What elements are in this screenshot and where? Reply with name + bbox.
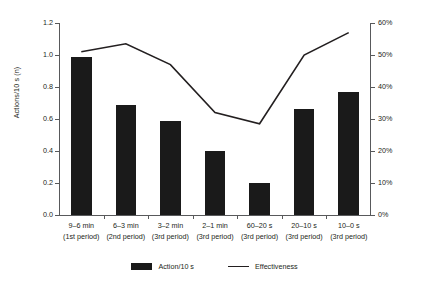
bar-swatch-icon: [131, 263, 152, 270]
right-tick-mark: [371, 215, 375, 216]
right-tick-label: 10%: [378, 179, 392, 186]
x-axis-baseline: [59, 215, 371, 216]
left-tick-label: 0.2: [25, 179, 53, 186]
right-tick-label: 30%: [378, 115, 392, 122]
category-main-label: 9–6 min: [69, 221, 95, 230]
category-main-label: 10–0 s: [338, 221, 360, 230]
right-tick-mark: [371, 183, 375, 184]
plot-area: 0.00.20.40.60.81.01.2 0%10%20%30%40%50%6…: [59, 23, 371, 215]
x-tick-mark: [148, 215, 149, 219]
left-tick-label: 1.0: [25, 51, 53, 58]
right-tick-label: 40%: [378, 83, 392, 90]
x-tick-mark: [237, 215, 238, 219]
legend-label-action-per-10s: Action/10 s: [158, 262, 194, 271]
category-main-label: 60–20 s: [247, 221, 273, 230]
right-tick-mark: [371, 23, 375, 24]
category-main-label: 2–1 min: [202, 221, 228, 230]
x-tick-mark: [104, 215, 105, 219]
left-tick-label: 1.2: [25, 19, 53, 26]
left-tick-mark: [55, 215, 59, 216]
x-axis-category-label: 10–0 s(3rd period): [321, 221, 376, 242]
line-swatch-icon: [228, 266, 249, 267]
left-tick-label: 0.8: [25, 83, 53, 90]
category-main-label: 20–10 s: [291, 221, 317, 230]
left-tick-label: 0.4: [25, 147, 53, 154]
left-tick-label: 0.6: [25, 115, 53, 122]
x-axis-category-labels: 9–6 min(1st period)6–3 min(2nd period)3–…: [59, 221, 371, 251]
x-tick-mark: [193, 215, 194, 219]
right-tick-label: 50%: [378, 51, 392, 58]
right-tick-label: 20%: [378, 147, 392, 154]
category-main-label: 3–2 min: [158, 221, 184, 230]
chart-legend: Action/10 s Effectiveness: [0, 262, 429, 271]
y-axis-title: Actions/10 s (n): [12, 33, 21, 153]
right-tick-mark: [371, 87, 375, 88]
left-tick-label: 0.0: [25, 211, 53, 218]
legend-entry-effectiveness: Effectiveness: [228, 262, 298, 271]
category-main-label: 6–3 min: [113, 221, 139, 230]
category-sub-label: (3rd period): [321, 232, 376, 243]
chart-figure: Actions/10 s (n) 0.00.20.40.60.81.01.2 0…: [0, 0, 429, 291]
right-tick-mark: [371, 55, 375, 56]
x-tick-mark: [282, 215, 283, 219]
line-series-effectiveness: [59, 23, 371, 215]
right-tick-label: 0%: [378, 211, 388, 218]
x-tick-mark: [326, 215, 327, 219]
legend-entry-action-per-10s: Action/10 s: [131, 262, 194, 271]
legend-label-effectiveness: Effectiveness: [255, 262, 298, 271]
right-tick-mark: [371, 151, 375, 152]
right-tick-mark: [371, 119, 375, 120]
right-tick-label: 60%: [378, 19, 392, 26]
